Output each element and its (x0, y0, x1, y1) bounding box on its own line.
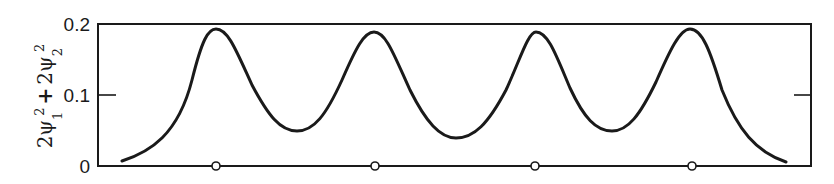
chart: 0.2 0.1 0 2ψ12+2ψ22 (0, 0, 834, 184)
svg-text:2ψ12+2ψ22: 2ψ12+2ψ22 (32, 44, 65, 149)
marker-2 (371, 162, 379, 170)
ytick-label-0: 0 (79, 156, 90, 177)
ytick-label-0.1: 0.1 (64, 85, 90, 106)
ytick-label-0.2: 0.2 (64, 14, 90, 35)
data-curve (122, 29, 786, 162)
marker-1 (212, 162, 220, 170)
marker-3 (531, 162, 539, 170)
y-axis-label: 2ψ12+2ψ22 (32, 44, 65, 149)
marker-4 (688, 162, 696, 170)
plot-frame (98, 24, 811, 166)
